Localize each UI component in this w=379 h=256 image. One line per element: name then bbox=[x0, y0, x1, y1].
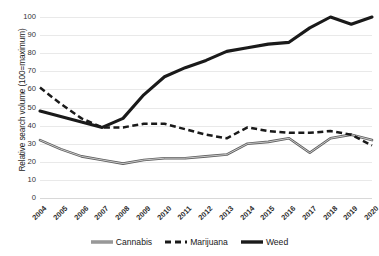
y-tick-label: 80 bbox=[2, 49, 36, 57]
series-line-weed bbox=[40, 17, 372, 127]
x-axis-line bbox=[40, 198, 372, 199]
x-axis-tick-labels: 2004200520062007200820092010201120122013… bbox=[40, 200, 372, 234]
y-tick-label: 20 bbox=[2, 158, 36, 166]
line-chart-figure: Relative search volume (100=maximum) 010… bbox=[0, 0, 379, 256]
series-layer bbox=[40, 17, 372, 198]
legend-label: Weed bbox=[266, 237, 288, 247]
y-tick-label: 10 bbox=[2, 176, 36, 184]
y-tick-label: 50 bbox=[2, 104, 36, 112]
y-tick-label: 40 bbox=[2, 122, 36, 130]
plot-area bbox=[40, 17, 372, 198]
line-thick-black-icon bbox=[241, 237, 263, 247]
series-line-marijuana bbox=[40, 88, 372, 146]
chart-legend: CannabisMarijuanaWeed bbox=[0, 232, 379, 252]
y-tick-label: 0 bbox=[2, 194, 36, 202]
legend-item-cannabis[interactable]: Cannabis bbox=[91, 237, 152, 247]
line-dashed-black-icon bbox=[165, 237, 187, 247]
y-tick-label: 70 bbox=[2, 67, 36, 75]
y-tick-label: 90 bbox=[2, 31, 36, 39]
legend-item-marijuana[interactable]: Marijuana bbox=[165, 237, 228, 247]
y-tick-label: 100 bbox=[2, 13, 36, 21]
line-thin-gray-icon bbox=[91, 237, 113, 247]
y-tick-label: 60 bbox=[2, 85, 36, 93]
legend-label: Cannabis bbox=[116, 237, 152, 247]
series-line-cannabis-outer bbox=[40, 135, 372, 164]
y-tick-label: 30 bbox=[2, 140, 36, 148]
series-line-cannabis-inner bbox=[40, 135, 372, 164]
legend-label: Marijuana bbox=[190, 237, 228, 247]
legend-item-weed[interactable]: Weed bbox=[241, 237, 288, 247]
